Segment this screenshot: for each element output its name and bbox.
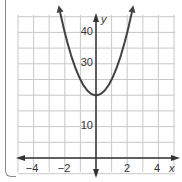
y-tick-10: 10 <box>81 119 93 131</box>
x-tick-4: 4 <box>154 162 160 174</box>
x-tick-neg2: −2 <box>58 162 71 174</box>
parabola-chart: −4 −2 2 4 x 10 30 40 y <box>0 0 182 182</box>
curve-arrow-right-icon <box>129 5 136 13</box>
x-axis <box>16 155 180 161</box>
x-axis-label: x <box>168 162 175 174</box>
y-tick-30: 30 <box>81 56 93 68</box>
x-tick-2: 2 <box>124 162 130 174</box>
x-tick-neg4: −4 <box>26 162 39 174</box>
y-tick-40: 40 <box>81 25 93 37</box>
y-axis-label: y <box>100 13 108 25</box>
curve-arrow-left-icon <box>57 5 64 13</box>
